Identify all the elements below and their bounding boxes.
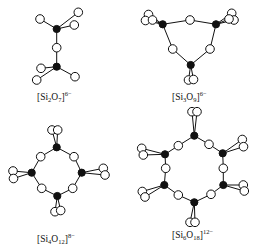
oxygen-atom (205, 140, 214, 149)
oxygen-atom (191, 218, 200, 227)
silicon-atom (191, 132, 198, 139)
oxygen-atom (219, 164, 228, 173)
oxygen-atom (52, 43, 61, 52)
oxygen-atom (239, 142, 248, 151)
oxygen-atom (168, 45, 177, 54)
oxygen-atom (32, 76, 41, 85)
silicon-atom (53, 63, 60, 70)
oxygen-atom (206, 45, 215, 54)
oxygen-atom (148, 16, 157, 25)
structure-si6o18 (137, 107, 248, 226)
oxygen-atom (225, 15, 234, 24)
oxygen-atom (70, 152, 79, 161)
structure-si3o9 (141, 9, 238, 84)
charge: 6− (65, 90, 72, 97)
silicon-atom (54, 192, 61, 199)
oxygen-atom (70, 21, 79, 30)
oxygen-atom (141, 193, 150, 202)
structure-si2o7 (32, 8, 82, 84)
silicon-atom (159, 21, 166, 28)
oxygen-atom (74, 8, 83, 17)
oxygen-atom (189, 75, 198, 84)
silicon-atom (191, 199, 198, 206)
label-text: [Si (37, 92, 48, 102)
oxygen-atom (71, 72, 80, 81)
label-si4o12: [Si4O12]8− (37, 233, 75, 246)
charge: 8− (68, 232, 75, 239)
silicon-atom (53, 144, 60, 151)
oxygen-atom (37, 64, 46, 73)
label-text: [Si (37, 234, 48, 244)
oxygen-atom (186, 16, 195, 25)
oxygen-atom (56, 206, 65, 215)
oxygen-atom (193, 107, 202, 116)
oxygen-atom (161, 164, 170, 173)
oxygen-atom (53, 126, 62, 135)
oxygen-atom (174, 141, 183, 150)
label-si6o18: [Si6O18]12− (172, 229, 213, 242)
charge: 6− (200, 90, 207, 97)
structure-si4o12 (9, 126, 110, 216)
silicon-atom (161, 181, 168, 188)
label-text: [Si (172, 230, 183, 240)
silicon-atom (187, 61, 194, 68)
silicon-atom (220, 181, 227, 188)
silicon-atom (212, 21, 219, 28)
oxygen-atom (68, 184, 77, 193)
silicon-atom (161, 151, 168, 158)
oxygen-atom (207, 190, 216, 199)
label-si3o9: [Si3O9]6− (172, 91, 207, 104)
silicon-atom (78, 169, 85, 176)
oxygen-atom (37, 184, 46, 193)
oxygen-atom (36, 152, 45, 161)
silicate-ring-diagram (0, 0, 255, 249)
label-si2o7: [Si2O7]6− (37, 91, 72, 104)
silicon-atom (28, 169, 35, 176)
label-text: [Si (172, 92, 183, 102)
silicon-atom (219, 150, 226, 157)
silicon-atom (53, 25, 60, 32)
oxygen-atom (240, 187, 249, 196)
oxygen-atom (139, 151, 148, 160)
charge: 12− (203, 228, 213, 235)
oxygen-atom (174, 191, 183, 200)
oxygen-atom (101, 171, 110, 180)
oxygen-atom (9, 174, 18, 183)
oxygen-atom (36, 15, 45, 24)
